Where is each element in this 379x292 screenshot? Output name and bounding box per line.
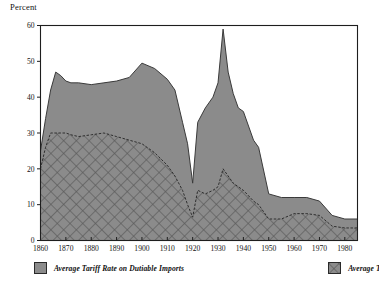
chart-legend: Average Tariff Rate on Dutiable Imports …	[0, 255, 379, 292]
x-tick-label: 1910	[160, 244, 175, 253]
tariff-area-chart-figure: Percent	[0, 0, 379, 292]
y-tick-label: 30	[27, 129, 35, 138]
x-tick-label: 1980	[337, 244, 352, 253]
x-tick-label: 1900	[134, 244, 149, 253]
x-tick-label: 1880	[84, 244, 99, 253]
x-tick-label: 1890	[109, 244, 124, 253]
x-tick-label: 1940	[236, 244, 251, 253]
y-tick-label: 60	[27, 21, 35, 30]
x-tick-label: 1960	[287, 244, 302, 253]
x-tick-label: 1860	[33, 244, 48, 253]
y-axis-ticks: 0102030405060	[27, 21, 41, 245]
plot-area: 0102030405060 18601870188018901900191019…	[0, 0, 379, 258]
legend-item-all-imports: Average Tariff Rate on All Imports	[328, 262, 379, 274]
x-tick-label: 1950	[261, 244, 276, 253]
x-tick-label: 1930	[210, 244, 225, 253]
legend-label-all-imports: Average Tariff Rate on All Imports	[348, 264, 379, 273]
legend-label-dutiable-imports: Average Tariff Rate on Dutiable Imports	[54, 264, 184, 273]
y-tick-label: 50	[27, 57, 35, 66]
y-tick-label: 40	[27, 93, 35, 102]
y-tick-label: 10	[27, 200, 35, 209]
chart-svg: 0102030405060 18601870188018901900191019…	[0, 0, 379, 258]
x-tick-label: 1920	[185, 244, 200, 253]
x-tick-label: 1970	[312, 244, 327, 253]
legend-item-dutiable-imports: Average Tariff Rate on Dutiable Imports	[34, 262, 184, 274]
crosshatch-swatch-icon	[328, 262, 341, 274]
x-tick-label: 1870	[58, 244, 73, 253]
solid-gray-swatch-icon	[34, 262, 47, 274]
y-tick-label: 20	[27, 165, 35, 174]
